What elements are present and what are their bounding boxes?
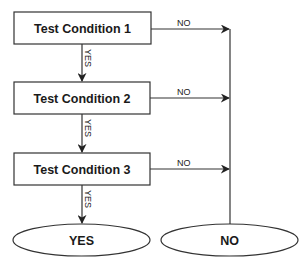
edge-c1-to-c2: YES	[82, 44, 93, 81]
edge-label: YES	[83, 49, 93, 67]
edge-c3-to-no: NO	[150, 158, 229, 169]
node-test-condition-2: Test Condition 2	[14, 82, 150, 114]
edge-label: NO	[177, 158, 191, 168]
edge-label: YES	[83, 119, 93, 137]
edge-label: NO	[177, 87, 191, 97]
edge-label: YES	[83, 190, 93, 208]
edge-c2-to-c3: YES	[82, 114, 93, 152]
node-label: NO	[220, 234, 239, 248]
node-test-condition-1: Test Condition 1	[14, 12, 151, 44]
edge-label: NO	[177, 18, 191, 28]
node-label: Test Condition 2	[34, 92, 131, 106]
node-test-condition-3: Test Condition 3	[14, 153, 150, 185]
node-label: YES	[69, 234, 94, 248]
node-label: Test Condition 1	[34, 22, 131, 36]
edge-c3-to-yes: YES	[82, 185, 93, 223]
node-yes-terminal: YES	[13, 224, 150, 256]
node-label: Test Condition 3	[34, 163, 131, 177]
node-no-terminal: NO	[161, 224, 298, 256]
edge-c2-to-no: NO	[150, 87, 229, 98]
edge-c1-to-no: NO	[151, 18, 229, 29]
flowchart: Test Condition 1 Test Condition 2 Test C…	[0, 0, 306, 264]
